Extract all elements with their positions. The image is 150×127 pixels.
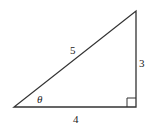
triangle-shape [14,11,136,107]
hypotenuse-label: 5 [70,44,76,56]
opposite-side-label: 3 [139,57,145,69]
right-angle-marker [127,98,136,107]
adjacent-side-label: 4 [73,113,79,125]
right-triangle-diagram: 5 3 4 θ [0,0,150,127]
angle-theta-label: θ [37,93,43,105]
